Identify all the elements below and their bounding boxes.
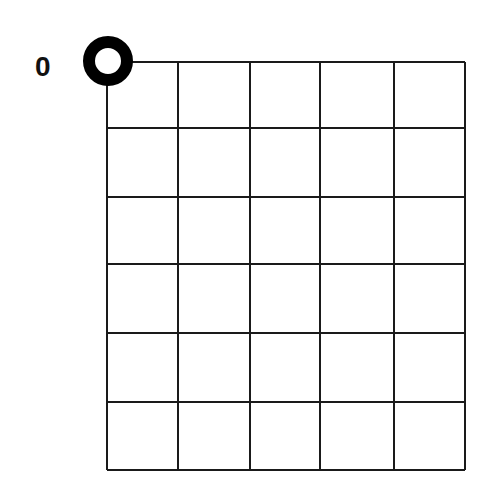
origin-ring-marker (89, 42, 127, 80)
grid-diagram (0, 0, 492, 497)
grid-lines (107, 62, 465, 470)
